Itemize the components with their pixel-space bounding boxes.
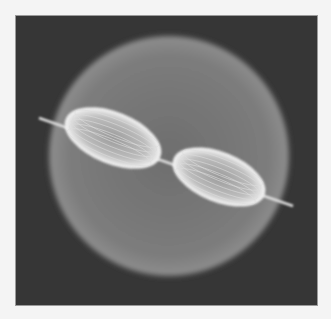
- nebula-image: [16, 16, 318, 306]
- spherical-shell: [45, 32, 293, 280]
- nebula-image-frame: [15, 15, 318, 306]
